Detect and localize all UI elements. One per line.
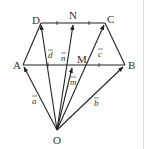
label-b: B	[128, 59, 135, 71]
svg-text:m: m	[70, 77, 77, 87]
label-o: O	[53, 134, 61, 146]
label-c: C	[107, 13, 114, 25]
vector-label-a: a	[32, 96, 37, 106]
label-d: D	[32, 14, 40, 26]
svg-text:c: c	[98, 49, 102, 59]
vector-label-n: n	[61, 53, 66, 63]
label-m: M	[77, 53, 87, 65]
vector-b	[57, 67, 123, 130]
vector-label-c: c	[98, 49, 103, 59]
vector-label-d: d	[48, 50, 53, 60]
svg-text:b: b	[94, 98, 99, 108]
label-n: N	[69, 9, 77, 21]
svg-text:n: n	[61, 53, 66, 63]
vector-label-m: m	[70, 77, 77, 87]
page-edge-line	[143, 0, 144, 149]
label-a: A	[13, 59, 21, 71]
segment-bc	[105, 23, 125, 65]
svg-text:d: d	[48, 50, 53, 60]
vector-diagram: D N C A M B O d n c m a b	[0, 0, 146, 149]
vector-label-b: b	[94, 98, 99, 108]
diagram-canvas: D N C A M B O d n c m a b	[0, 0, 146, 149]
segment-ad	[23, 23, 41, 65]
svg-text:a: a	[32, 96, 37, 106]
vector-c	[57, 25, 104, 130]
